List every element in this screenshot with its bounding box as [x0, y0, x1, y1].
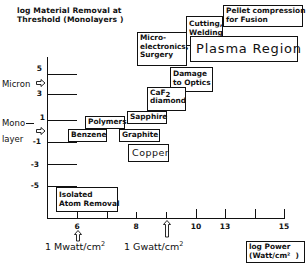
monolayer-label-line1: Mono [2, 118, 25, 128]
box-microelectronics: Micro- electronics, Surgery [137, 32, 187, 66]
x-tick-15 [284, 209, 285, 218]
y-label-3: 3 [30, 89, 42, 98]
y-tick-5 [47, 74, 77, 75]
gwatt-sup: 2 [179, 240, 183, 248]
box-isolated-atom-removal: Isolated Atom Removal [56, 187, 118, 212]
x-tick-8 [136, 212, 137, 218]
x-tick-9 [166, 212, 167, 218]
y-label-5: 5 [30, 64, 42, 73]
box-sapphire: Sapphire [127, 111, 167, 124]
box-caf2-diamond: CaF2diamond [147, 87, 186, 111]
y-tick-3 [47, 94, 77, 95]
monolayer-dash [26, 123, 34, 124]
x-tick-10 [196, 209, 197, 218]
diamond-text: diamond [150, 96, 186, 105]
y-label-neg3: -3 [27, 160, 39, 169]
x-label-13: 13 [215, 222, 235, 231]
x-axis-title-box: log Power (Watt/cm² ) [246, 241, 305, 263]
y-tick-1 [47, 120, 77, 121]
box-pellet-compression: Pellet compression for Fusion [223, 5, 303, 27]
box-polymers: Polymers [85, 116, 125, 129]
y-label-neg1: -1 [29, 137, 41, 146]
y-label-1: 1 [33, 113, 45, 122]
box-graphite: Graphite [119, 129, 160, 142]
y-axis-line [47, 57, 48, 219]
gwatt-label: 1 Gwatt/cm2 [124, 240, 183, 252]
monolayer-label-line2: layer [2, 134, 23, 144]
box-benzene: Benzene [68, 129, 107, 142]
y-axis-title: log Material Removal at Threshold (Monol… [17, 6, 123, 24]
y-tick-neg1 [47, 142, 77, 143]
box-copper: Copper [128, 144, 169, 162]
y-tick-neg3 [47, 164, 77, 165]
x-label-15: 15 [274, 222, 294, 231]
x-tick-14 [255, 209, 256, 218]
mwatt-sup: 2 [101, 240, 105, 248]
gwatt-text: 1 Gwatt/cm [124, 241, 179, 252]
mwatt-text: 1 Mwatt/cm [45, 241, 101, 252]
micron-label: Micron [2, 79, 30, 89]
x-label-10: 10 [186, 222, 206, 231]
monolayer-arrow-icon [36, 127, 46, 135]
gwatt-up-arrow-icon [163, 220, 171, 238]
y-label-neg5: -5 [27, 181, 39, 190]
micron-arrow-icon [36, 79, 46, 87]
mwatt-label: 1 Mwatt/cm2 [45, 240, 105, 252]
x-tick-13 [225, 209, 226, 218]
box-plasma-region: Plasma Region [190, 36, 298, 62]
x-label-8: 8 [126, 222, 146, 231]
